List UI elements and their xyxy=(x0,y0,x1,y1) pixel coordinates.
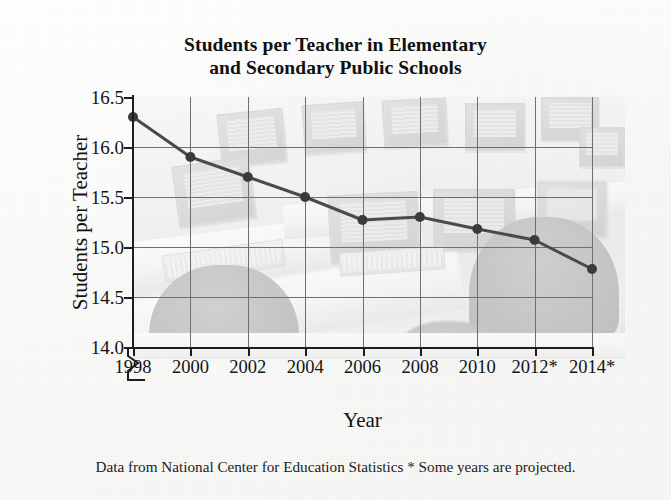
data-series-svg xyxy=(133,97,592,347)
x-tick-label: 1998 xyxy=(115,357,152,378)
y-tick-mark xyxy=(124,197,133,199)
y-tick-label: 16.5 xyxy=(60,88,124,107)
y-tick-mark xyxy=(124,97,133,99)
x-tick-mark xyxy=(305,347,307,356)
data-point-marker xyxy=(300,192,310,202)
x-tick-mark xyxy=(535,347,537,356)
y-tick-labels: 16.516.015.515.014.514.0 xyxy=(50,0,124,500)
y-tick-label: 14.5 xyxy=(60,288,124,307)
data-point-marker xyxy=(415,212,425,222)
x-tick-label: 2010 xyxy=(459,357,496,378)
x-tick-label: 2002 xyxy=(229,357,266,378)
x-axis-title: Year xyxy=(133,408,592,433)
y-tick-label: 14.0 xyxy=(60,338,124,357)
data-point-marker xyxy=(587,264,597,274)
y-tick-label: 15.5 xyxy=(60,188,124,207)
x-tick-mark xyxy=(477,347,479,356)
x-tick-label: 2004 xyxy=(287,357,324,378)
y-tick-mark xyxy=(124,147,133,149)
data-point-marker xyxy=(472,224,482,234)
data-point-marker xyxy=(358,215,368,225)
x-tick-mark xyxy=(420,347,422,356)
y-tick-mark xyxy=(124,297,133,299)
data-point-marker xyxy=(530,235,540,245)
y-tick-label: 16.0 xyxy=(60,138,124,157)
x-tick-label: 2014* xyxy=(569,357,615,378)
data-point-marker xyxy=(243,172,253,182)
y-tick-label: 15.0 xyxy=(60,238,124,257)
footnote: Data from National Center for Education … xyxy=(0,458,671,476)
x-tick-label: 2012* xyxy=(512,357,558,378)
gridline-vertical xyxy=(592,97,593,347)
y-tick-mark xyxy=(124,247,133,249)
x-tick-mark xyxy=(190,347,192,356)
x-tick-label: 2000 xyxy=(172,357,209,378)
x-tick-label: 2008 xyxy=(401,357,438,378)
data-line xyxy=(133,117,592,269)
x-tick-mark xyxy=(248,347,250,356)
x-tick-mark xyxy=(133,347,135,356)
chart-figure: Students per Teacher in Elementary and S… xyxy=(0,0,671,500)
data-point-marker xyxy=(185,152,195,162)
x-tick-mark xyxy=(363,347,365,356)
y-axis-line xyxy=(132,95,134,349)
x-tick-mark xyxy=(592,347,594,356)
plot-area xyxy=(133,97,592,347)
y-tick-mark xyxy=(124,347,133,349)
x-tick-label: 2006 xyxy=(344,357,381,378)
